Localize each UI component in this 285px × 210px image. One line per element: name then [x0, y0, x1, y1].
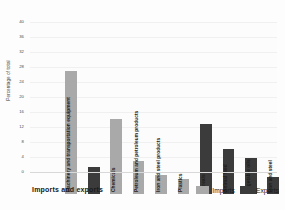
y-axis-tick-label: 12 [19, 125, 24, 129]
y-axis-tick-label: 28 [19, 65, 24, 69]
y-axis-tick-label: 36 [19, 35, 24, 39]
legend-entry-exports: Exports [240, 186, 279, 194]
bar-category-label: Machinery and transportation equipment [66, 97, 71, 192]
bar-category-label: Iron and steel products [156, 138, 161, 192]
y-axis-tick-label: 4 [22, 155, 24, 159]
legend-label-exports: Exports [256, 187, 279, 194]
legend-entry-imports: Imports [196, 186, 235, 194]
legend-swatch-imports-icon [196, 186, 209, 194]
legend: Imports Exports [196, 186, 279, 194]
bar-category-label: Petroleum and petroleum products [134, 111, 139, 192]
bar-category-label: Plastics [178, 173, 183, 192]
y-axis-tick-label: 24 [19, 80, 24, 84]
legend-label-imports: Imports [212, 187, 235, 194]
plot-area: Machinery and transportation equipmentCh… [30, 22, 277, 172]
y-axis-tick-label: 20 [19, 95, 24, 99]
chart-title: Imports and exports [32, 186, 103, 193]
y-axis-tick-label: 16 [19, 110, 24, 114]
y-axis-tick-label: 8 [22, 140, 24, 144]
gridline [30, 22, 277, 23]
y-axis-tick-label: 32 [19, 50, 24, 54]
legend-swatch-exports-icon [240, 186, 253, 194]
y-axis-ticks: 4036322824201612840 [0, 22, 28, 172]
y-axis-tick-label: 0 [22, 170, 24, 174]
y-axis-tick-label: 40 [19, 20, 24, 24]
gridline [30, 37, 277, 38]
bar-chart: Machinery and transportation equipmentCh… [0, 0, 285, 210]
y-axis-title: Percentage of total [6, 46, 11, 116]
x-axis-line [30, 172, 277, 173]
